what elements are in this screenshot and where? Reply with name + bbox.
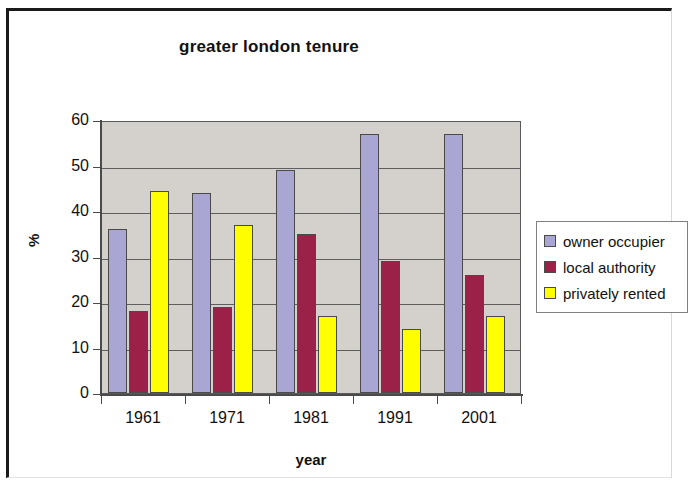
- bar-local-authority-1991: [381, 261, 400, 393]
- x-axis-tick-label: 1971: [185, 409, 269, 427]
- legend-swatch-icon: [544, 287, 556, 299]
- bar-privately-rented-1961: [150, 191, 169, 393]
- bar-privately-rented-1971: [234, 225, 253, 393]
- x-axis-tick: [101, 396, 102, 404]
- bar-local-authority-1981: [297, 234, 316, 393]
- bar-owner-occupier-1991: [360, 134, 379, 393]
- y-axis-tick: [93, 394, 101, 395]
- plot-area: [101, 121, 521, 394]
- x-axis-tick-label: 1981: [269, 409, 353, 427]
- y-axis-tick-label: 20: [53, 293, 89, 311]
- y-axis-tick-label: 10: [53, 339, 89, 357]
- legend-item-local-authority[interactable]: local authority: [544, 254, 681, 280]
- y-axis-title: %: [25, 234, 42, 247]
- y-axis-tick-label: 0: [53, 384, 89, 402]
- x-axis-tick: [269, 396, 270, 404]
- bar-local-authority-1971: [213, 307, 232, 393]
- y-axis-tick-label: 60: [53, 111, 89, 129]
- bar-privately-rented-1981: [318, 316, 337, 393]
- y-axis-tick: [93, 349, 101, 350]
- x-axis-tick: [185, 396, 186, 404]
- bar-local-authority-2001: [465, 275, 484, 393]
- legend-item-label: owner occupier: [563, 233, 665, 250]
- y-axis-tick: [93, 258, 101, 259]
- bar-privately-rented-2001: [486, 316, 505, 393]
- bar-owner-occupier-1981: [276, 170, 295, 393]
- y-axis-tick-label: 40: [53, 202, 89, 220]
- x-axis-line: [100, 394, 523, 396]
- x-axis-tick-label: 1991: [353, 409, 437, 427]
- y-axis-tick: [93, 212, 101, 213]
- figure-frame: greater london tenure % 6050403020100 ye…: [6, 8, 672, 478]
- y-axis-tick-labels: 6050403020100: [45, 121, 89, 394]
- y-axis-tick-label: 50: [53, 157, 89, 175]
- chart-title: greater london tenure: [9, 37, 529, 57]
- x-axis-title: year: [101, 451, 521, 468]
- y-axis-tick: [93, 167, 101, 168]
- y-axis-tick-label: 30: [53, 248, 89, 266]
- bar-local-authority-1961: [129, 311, 148, 393]
- bar-owner-occupier-2001: [444, 134, 463, 393]
- x-axis-tick: [521, 396, 522, 404]
- legend-swatch-icon: [544, 235, 556, 247]
- y-axis-tick: [93, 303, 101, 304]
- bar-owner-occupier-1961: [108, 229, 127, 393]
- bar-privately-rented-1991: [402, 329, 421, 393]
- x-axis-tick-label: 1961: [101, 409, 185, 427]
- x-axis-tick-label: 2001: [437, 409, 521, 427]
- legend-item-label: privately rented: [563, 285, 666, 302]
- x-axis-tick: [353, 396, 354, 404]
- y-axis-tick: [93, 121, 101, 122]
- legend-swatch-icon: [544, 261, 556, 273]
- legend-item-label: local authority: [563, 259, 656, 276]
- bar-owner-occupier-1971: [192, 193, 211, 393]
- legend-item-owner-occupier[interactable]: owner occupier: [544, 228, 681, 254]
- legend-item-privately-rented[interactable]: privately rented: [544, 280, 681, 306]
- chart-legend: owner occupierlocal authorityprivately r…: [536, 221, 688, 313]
- x-axis-tick: [437, 396, 438, 404]
